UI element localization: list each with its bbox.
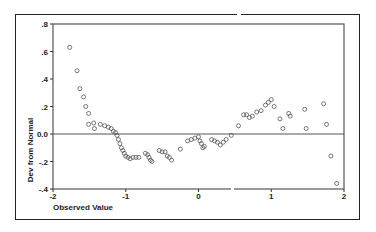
- data-point: [92, 121, 96, 125]
- data-point: [278, 117, 282, 121]
- data-point: [303, 107, 307, 111]
- x-tick-label: -2: [49, 192, 57, 201]
- data-point: [281, 127, 285, 131]
- x-tick-label: 2: [342, 192, 347, 201]
- data-point: [163, 150, 167, 154]
- y-tick-label: 0.0: [37, 130, 49, 139]
- y-tick-label: .8: [41, 20, 48, 29]
- y-tick-label: .4: [41, 75, 48, 84]
- x-tick-label: 0: [196, 192, 201, 201]
- data-point: [84, 105, 88, 109]
- data-point: [118, 142, 122, 146]
- data-point: [237, 124, 241, 128]
- data-point: [170, 158, 174, 162]
- data-point: [87, 111, 91, 115]
- data-point: [116, 138, 120, 142]
- y-tick-label: .2: [41, 103, 48, 112]
- data-point: [255, 110, 259, 114]
- plot-area: [53, 24, 344, 189]
- data-point: [87, 122, 91, 126]
- data-point: [325, 122, 329, 126]
- x-tick-label: 1: [269, 192, 274, 201]
- data-point: [178, 147, 182, 151]
- data-point: [92, 127, 96, 131]
- x-tick-label: -1: [122, 192, 130, 201]
- y-tick-label: .6: [41, 48, 48, 57]
- data-point: [335, 182, 339, 186]
- data-point: [304, 127, 308, 131]
- data-point: [272, 105, 276, 109]
- x-axis-label: Observed Value: [53, 203, 114, 212]
- scatter-chart: .8.6.4.20.0-.2-.4 -2-1012 Observed Value…: [0, 0, 376, 232]
- data-point: [197, 135, 201, 139]
- data-point: [82, 95, 86, 99]
- data-point: [224, 138, 228, 142]
- data-point: [137, 155, 141, 159]
- data-point: [259, 109, 263, 113]
- axis-gap: [231, 186, 234, 192]
- data-point: [322, 102, 326, 106]
- y-tick-label: -.4: [39, 185, 49, 194]
- data-point: [75, 69, 79, 73]
- data-point: [269, 98, 273, 102]
- data-point: [329, 154, 333, 158]
- y-tick-label: -.2: [39, 158, 49, 167]
- data-point: [98, 122, 102, 126]
- data-point: [78, 87, 82, 91]
- y-axis-label: Dev from Normal: [26, 118, 35, 182]
- data-point: [68, 45, 72, 49]
